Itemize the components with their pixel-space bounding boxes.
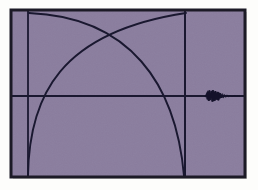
figure-root [0, 0, 258, 190]
figure-canvas [0, 0, 258, 190]
